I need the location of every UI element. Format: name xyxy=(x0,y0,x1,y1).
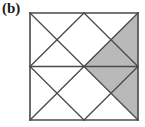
tiling-diagram xyxy=(0,0,145,127)
figure-panel: (b) xyxy=(0,0,145,127)
